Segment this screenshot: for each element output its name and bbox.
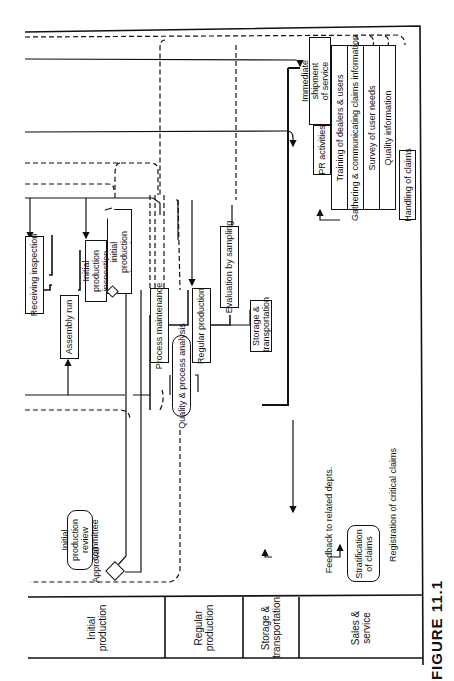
assembly-run-box[interactable]: Assembly run xyxy=(60,295,79,359)
evaluation-sampling-label: Evaluation by sampling xyxy=(225,221,235,314)
initial-production-inspection-box[interactable]: Initial production inspection xyxy=(85,240,107,302)
stratification-claims-box[interactable]: Stratification of claims xyxy=(347,525,380,582)
registration-label-wrap: Registration of critical claims xyxy=(387,440,399,570)
report-initial-inspection-box[interactable]: Report on initial production inspection xyxy=(107,209,132,294)
registration-critical-label: Registration of critical claims xyxy=(388,448,398,562)
regular-production-label: Regular production xyxy=(197,287,207,363)
handling-claims-box[interactable]: Handling of claims xyxy=(399,150,416,220)
figure-caption-text: FIGURE 11.1 xyxy=(432,580,442,680)
gathering-claims-box[interactable]: Gathering & communicating claims informa… xyxy=(347,45,364,210)
quality-information-box[interactable]: Quality information xyxy=(379,45,396,210)
lane-sales-service: Sales & service xyxy=(299,597,423,658)
quality-process-analysis-label: Quality & process analysis xyxy=(177,323,187,429)
training-dealers-box[interactable]: Training of dealers & users xyxy=(331,45,348,210)
approval-label: Approval xyxy=(91,547,101,583)
lane-initial-production: Initial production xyxy=(28,597,165,658)
regular-production-box[interactable]: Regular production xyxy=(192,288,211,363)
assembly-run-label: Assembly run xyxy=(65,300,75,355)
storage-transportation-box[interactable]: Storage & transportation xyxy=(250,300,272,352)
handling-claims-label: Handling of claims xyxy=(403,148,413,222)
immediate-shipment-box[interactable]: Immediate shipment of service parts xyxy=(309,37,331,125)
figure-caption: FIGURE 11.1 xyxy=(425,600,449,660)
receiving-inspection-box[interactable]: Receiving inspection xyxy=(25,236,44,314)
storage-transportation-label: Storage & transportation xyxy=(251,300,271,352)
training-dealers-label: Training of dealers & users xyxy=(335,74,345,181)
quality-process-analysis-box[interactable]: Quality & process analysis xyxy=(172,335,191,417)
process-maintenance-label: Process maintenance xyxy=(155,282,165,369)
gathering-claims-label: Gathering & communicating claims informa… xyxy=(351,34,361,220)
survey-user-needs-label: Survey of user needs xyxy=(367,85,377,170)
feedback-label-wrap: Feedback to related depts. xyxy=(323,470,335,570)
stratification-claims-label: Stratification of claims xyxy=(354,529,374,579)
decision-diamond-small xyxy=(107,286,117,296)
approval-diamond xyxy=(106,562,124,580)
quality-information-label: Quality information xyxy=(383,90,393,165)
approval-label-wrap: Approval xyxy=(90,545,102,585)
feedback-depts-label: Feedback to related depts. xyxy=(324,467,334,574)
process-maintenance-box[interactable]: Process maintenance xyxy=(150,288,169,363)
pr-activities-label: PR activities xyxy=(317,125,327,175)
lane-regular-production: Regular production xyxy=(165,597,243,658)
pr-activities-box[interactable]: PR activities xyxy=(313,125,331,175)
lane-storage-transportation: Storage & transportation xyxy=(243,597,299,658)
evaluation-sampling-box[interactable]: Evaluation by sampling xyxy=(220,226,239,308)
survey-user-needs-box[interactable]: Survey of user needs xyxy=(363,45,380,210)
receiving-inspection-label: Receiving inspection xyxy=(30,234,40,317)
